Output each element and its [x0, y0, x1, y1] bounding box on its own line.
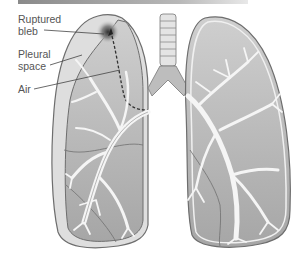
label-pleural-space: Pleural space [18, 48, 51, 72]
lung-diagram [0, 0, 307, 258]
label-ruptured-bleb: Ruptured bleb [18, 13, 61, 37]
label-ruptured-bleb-line1: Ruptured [18, 13, 61, 25]
label-pleural-space-line1: Pleural [18, 48, 51, 60]
label-air: Air [18, 83, 31, 95]
ruptured-bleb-spot [96, 20, 120, 44]
label-air-line1: Air [18, 83, 31, 95]
label-ruptured-bleb-line2: bleb [18, 25, 61, 37]
collapsed-lung [52, 15, 148, 248]
normal-lung [186, 17, 291, 247]
label-pleural-space-line2: space [18, 60, 51, 72]
trachea [148, 14, 188, 96]
